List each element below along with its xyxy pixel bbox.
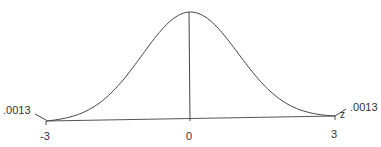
- x-axis-baseline: [46, 116, 335, 121]
- x-axis-variable-label: z: [340, 110, 345, 120]
- x-tick-label-3: 3: [331, 129, 337, 140]
- left-tail-probability-label: .0013: [3, 105, 31, 116]
- x-tick-label-0: 0: [186, 131, 192, 142]
- left-leader-line: [35, 114, 46, 120]
- normal-density-curve: [46, 12, 335, 121]
- right-tail-probability-label: .0013: [350, 102, 378, 113]
- x-tick-label-neg3: -3: [40, 131, 50, 142]
- mean-line: [189, 12, 190, 121]
- normal-curve-chart: [0, 0, 381, 147]
